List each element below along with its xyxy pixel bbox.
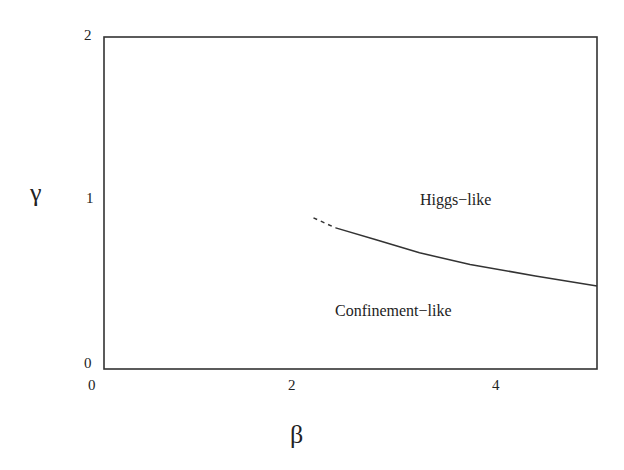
y-tick-2: 2	[84, 27, 92, 44]
y-tick-1: 1	[86, 190, 94, 207]
x-tick-4: 4	[492, 377, 500, 394]
phase-boundary-curve	[314, 218, 598, 286]
x-axis-label: β	[290, 420, 303, 450]
higgs-region-label: Higgs−like	[420, 191, 491, 209]
y-tick-0: 0	[84, 355, 92, 372]
plot-area	[0, 0, 624, 470]
y-axis-label: γ	[30, 178, 42, 208]
x-tick-2: 2	[288, 377, 296, 394]
x-tick-0: 0	[88, 377, 96, 394]
dashed-boundary-line	[314, 218, 336, 228]
confinement-region-label: Confinement−like	[335, 302, 452, 320]
solid-boundary-line	[336, 228, 597, 286]
